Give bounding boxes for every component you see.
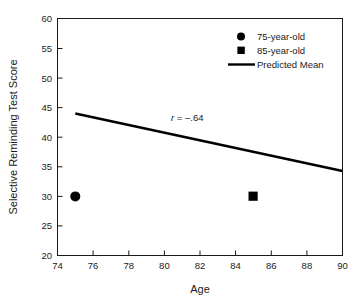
- x-axis-title: Age: [190, 283, 210, 295]
- predicted-mean-line: [75, 114, 342, 171]
- legend-square-icon: [237, 47, 244, 54]
- y-tick-label: 55: [41, 43, 52, 54]
- legend: 75-year-old 85-year-old Predicted Mean: [228, 31, 324, 70]
- x-axis-tick-labels: 74 76 78 80 82 84 86 88 90: [52, 260, 348, 271]
- legend-circle-icon: [237, 33, 245, 41]
- x-tick-label: 78: [124, 260, 135, 271]
- correlation-annotation: r = –.64: [171, 112, 204, 123]
- y-tick-label: 60: [41, 13, 52, 24]
- x-tick-label: 74: [52, 260, 63, 271]
- y-tick-label: 25: [41, 220, 52, 231]
- y-tick-label: 35: [41, 161, 52, 172]
- y-tick-label: 30: [41, 191, 52, 202]
- y-tick-label: 50: [41, 73, 52, 84]
- x-tick-label: 76: [88, 260, 99, 271]
- x-tick-label: 90: [337, 260, 348, 271]
- x-tick-label: 84: [230, 260, 241, 271]
- y-axis-tick-labels: 20 25 30 35 40 45 50 55 60: [41, 13, 52, 261]
- x-tick-label: 86: [266, 260, 277, 271]
- y-tick-label: 40: [41, 132, 52, 143]
- figure-container: 20 25 30 35 40 45 50 55 60 74 76 78: [0, 0, 364, 306]
- x-tick-label: 88: [302, 260, 313, 271]
- y-axis-title: Selective Reminding Test Score: [7, 59, 19, 214]
- legend-label-75-year-old: 75-year-old: [257, 31, 305, 42]
- correlation-r-value: = –.64: [174, 112, 203, 123]
- y-tick-label: 45: [41, 102, 52, 113]
- legend-label-predicted-mean: Predicted Mean: [257, 59, 324, 70]
- legend-label-85-year-old: 85-year-old: [257, 45, 305, 56]
- x-tick-label: 82: [195, 260, 206, 271]
- data-point-85-year-old: [249, 192, 258, 201]
- x-axis-ticks: [58, 251, 343, 256]
- y-axis-ticks: [58, 19, 63, 256]
- x-tick-label: 80: [159, 260, 170, 271]
- scatter-chart: 20 25 30 35 40 45 50 55 60 74 76 78: [0, 0, 364, 306]
- y-tick-label: 20: [41, 250, 52, 261]
- data-point-75-year-old: [70, 191, 80, 201]
